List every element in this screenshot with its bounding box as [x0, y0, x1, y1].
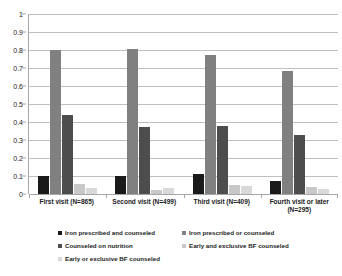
bar	[151, 190, 162, 194]
y-tick-mark	[22, 32, 26, 33]
legend-row: Early or exclusive BF counseled	[58, 252, 298, 265]
bar	[241, 186, 252, 194]
bar	[217, 126, 228, 194]
bar	[163, 188, 174, 194]
bar	[270, 181, 281, 194]
legend-item[interactable]: Early or exclusive BF counseled	[58, 252, 182, 265]
chart-legend: Iron prescribed and counseledIron prescr…	[58, 226, 298, 270]
legend-swatch-icon	[182, 231, 186, 235]
legend-row: Counseled on nutritionEarly and exclusiv…	[58, 239, 298, 252]
bar	[62, 115, 73, 194]
legend-swatch-icon	[182, 244, 186, 248]
bar-group	[106, 14, 183, 194]
bar	[74, 184, 85, 194]
legend-label: Early or exclusive BF counseled	[65, 255, 160, 262]
legend-row: Iron prescribed and counseledIron prescr…	[58, 226, 298, 239]
bar	[294, 135, 305, 194]
y-tick-mark	[22, 50, 26, 51]
legend-label: Early and exclusive BF counseled	[189, 242, 289, 249]
bar	[193, 174, 204, 194]
plot-area	[28, 14, 338, 194]
y-tick-mark	[22, 140, 26, 141]
y-tick-mark	[22, 176, 26, 177]
bar	[139, 127, 150, 194]
bar	[282, 71, 293, 194]
x-axis-label: Third visit (N=409)	[183, 198, 261, 224]
bar-chart: 10.90.80.70.60.50.40.30.20.10 First visi…	[0, 0, 342, 276]
legend-swatch-icon	[58, 257, 62, 261]
y-tick-mark	[22, 68, 26, 69]
bar-group	[29, 14, 106, 194]
bar	[306, 187, 317, 194]
bar	[318, 189, 329, 194]
bar	[38, 176, 49, 194]
bar-group	[184, 14, 261, 194]
x-axis-labels: First visit (N=865)Second visit (N=499)T…	[28, 198, 338, 224]
y-axis: 10.90.80.70.60.50.40.30.20.10	[0, 0, 26, 200]
legend-item[interactable]: Counseled on nutrition	[58, 239, 182, 252]
legend-item[interactable]: Iron prescribed and counseled	[58, 226, 182, 239]
bar	[86, 188, 97, 194]
legend-swatch-icon	[58, 231, 62, 235]
bar-groups	[29, 14, 338, 194]
legend-label: Iron prescribed and counseled	[65, 229, 155, 236]
plot-wrapper: 10.90.80.70.60.50.40.30.20.10	[0, 0, 342, 200]
y-tick-mark	[22, 14, 26, 15]
bar	[205, 55, 216, 195]
y-tick-mark	[22, 158, 26, 159]
legend-label: Iron prescribed or counseled	[189, 229, 274, 236]
x-axis-label: Fourth visit or later (N=295)	[261, 198, 339, 224]
legend-item[interactable]: Iron prescribed or counseled	[182, 226, 298, 239]
y-tick-mark	[22, 86, 26, 87]
bar	[115, 176, 126, 194]
y-tick-mark	[22, 122, 26, 123]
y-tick-mark	[22, 104, 26, 105]
legend-item[interactable]: Early and exclusive BF counseled	[182, 239, 298, 252]
legend-swatch-icon	[58, 244, 62, 248]
bar	[50, 50, 61, 194]
legend-label: Counseled on nutrition	[65, 242, 133, 249]
x-axis-label: First visit (N=865)	[28, 198, 106, 224]
bar	[127, 49, 138, 194]
bar	[229, 185, 240, 194]
bar-group	[261, 14, 338, 194]
y-tick-mark	[22, 194, 26, 195]
x-axis-label: Second visit (N=499)	[106, 198, 184, 224]
